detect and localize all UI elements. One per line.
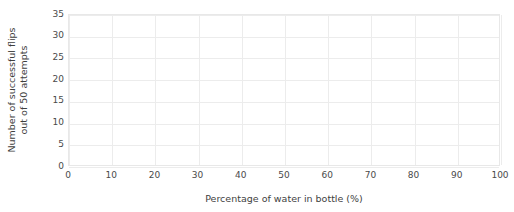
gridline-horizontal [69, 124, 499, 125]
gridline-vertical [199, 15, 200, 165]
y-axis-title-line-1: Number of successful flips [6, 27, 18, 152]
x-axis-tick-labels: 0102030405060708090100 [68, 170, 500, 184]
y-axis-tick-labels: 05101520253035 [36, 0, 64, 212]
gridline-horizontal [69, 58, 499, 59]
x-axis-tick-label: 50 [278, 170, 289, 180]
gridline-horizontal [69, 145, 499, 146]
chart-container: Number of successful flips out of 50 att… [0, 0, 514, 212]
gridline-vertical [69, 15, 70, 165]
y-axis-tick-label: 0 [40, 162, 64, 171]
y-axis-tick-label: 35 [40, 10, 64, 19]
gridline-horizontal [69, 80, 499, 81]
x-axis-title: Percentage of water in bottle (%) [68, 193, 500, 204]
gridline-vertical [328, 15, 329, 165]
gridline-vertical [112, 15, 113, 165]
y-axis-tick-label: 25 [40, 53, 64, 62]
x-axis-tick-label: 10 [105, 170, 116, 180]
gridline-vertical [242, 15, 243, 165]
x-axis-tick-label: 70 [365, 170, 376, 180]
gridline-vertical [285, 15, 286, 165]
y-axis-title-line-2: out of 50 attempts [18, 27, 30, 152]
y-axis-tick-label: 30 [40, 31, 64, 40]
x-axis-tick-label: 20 [149, 170, 160, 180]
gridline-horizontal [69, 167, 499, 168]
x-axis-tick-label: 0 [65, 170, 71, 180]
gridline-horizontal [69, 102, 499, 103]
y-axis-title: Number of successful flips out of 50 att… [0, 0, 36, 180]
plot-area [68, 14, 500, 166]
x-axis-tick-label: 30 [192, 170, 203, 180]
gridline-horizontal [69, 37, 499, 38]
x-axis-tick-label: 40 [235, 170, 246, 180]
gridline-vertical [155, 15, 156, 165]
y-axis-tick-label: 20 [40, 75, 64, 84]
gridline-horizontal [69, 15, 499, 16]
y-axis-tick-label: 5 [40, 140, 64, 149]
gridline-vertical [458, 15, 459, 165]
gridline-vertical [501, 15, 502, 165]
x-axis-tick-label: 80 [408, 170, 419, 180]
x-axis-tick-label: 100 [491, 170, 508, 180]
gridline-vertical [415, 15, 416, 165]
x-axis-tick-label: 60 [321, 170, 332, 180]
gridline-vertical [371, 15, 372, 165]
x-axis-tick-label: 90 [451, 170, 462, 180]
y-axis-tick-label: 10 [40, 118, 64, 127]
y-axis-tick-label: 15 [40, 96, 64, 105]
